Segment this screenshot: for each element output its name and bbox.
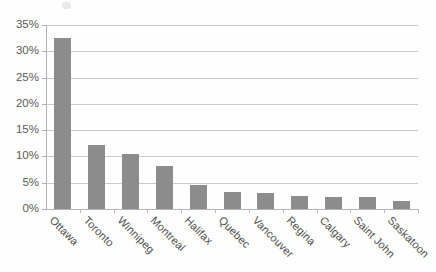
x-tick-mark (418, 209, 419, 213)
y-tick-mark (42, 209, 47, 210)
x-tick-mark (80, 209, 81, 213)
bar (122, 154, 139, 209)
bar (54, 38, 71, 209)
x-axis-category-label: Quebec (217, 214, 253, 250)
x-axis-category-label: Calgary (318, 214, 354, 250)
x-axis-category-label: Winnipeg (115, 214, 156, 255)
bar-chart: 0%5%10%15%20%25%30%35% OttawaTorontoWinn… (0, 0, 436, 272)
y-tick-mark (42, 78, 47, 79)
x-tick-mark (249, 209, 250, 213)
bar (190, 185, 207, 209)
scan-artifact (62, 2, 71, 9)
x-tick-mark (317, 209, 318, 213)
y-axis-tick-label: 0% (0, 202, 39, 214)
y-tick-mark (42, 51, 47, 52)
x-tick-mark (114, 209, 115, 213)
x-tick-mark (181, 209, 182, 213)
y-axis-tick-label: 25% (0, 71, 39, 83)
x-axis-category-label: Vancouver (250, 214, 296, 260)
y-axis-tick-label: 30% (0, 44, 39, 56)
y-tick-mark (42, 130, 47, 131)
x-axis-category-label: Saskatoon (386, 214, 432, 260)
bar (325, 197, 342, 209)
x-axis-category-label: Halifax (183, 214, 216, 247)
x-axis-category-label: Saint John (352, 214, 398, 260)
y-axis-tick-label: 10% (0, 149, 39, 161)
x-tick-mark (215, 209, 216, 213)
bar (88, 145, 105, 209)
x-tick-mark (147, 209, 148, 213)
x-tick-mark (350, 209, 351, 213)
bar (156, 166, 173, 209)
x-axis-category-label: Montreal (149, 214, 188, 253)
y-axis-tick-label: 20% (0, 97, 39, 109)
y-axis-tick-label: 15% (0, 123, 39, 135)
x-axis-category-label: Ottawa (47, 214, 81, 248)
x-tick-mark (384, 209, 385, 213)
y-axis-tick-label: 35% (0, 18, 39, 30)
y-tick-mark (42, 25, 47, 26)
bars-layer (46, 25, 418, 209)
bar (224, 192, 241, 209)
bar (257, 193, 274, 209)
gridline (46, 209, 418, 210)
y-axis-tick-label: 5% (0, 176, 39, 188)
y-tick-mark (42, 104, 47, 105)
bar (291, 196, 308, 209)
x-axis-category-label: Regina (284, 214, 318, 248)
x-tick-mark (283, 209, 284, 213)
x-axis-category-label: Toronto (81, 214, 116, 249)
y-tick-mark (42, 156, 47, 157)
bar (359, 197, 376, 209)
y-tick-mark (42, 183, 47, 184)
bar (393, 201, 410, 209)
